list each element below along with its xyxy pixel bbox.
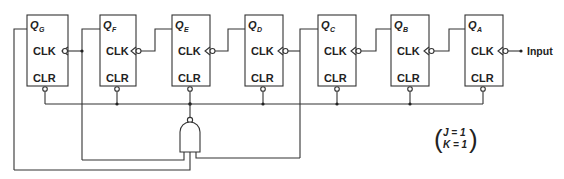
junction-dot-icon — [115, 102, 118, 105]
j-equals-label: J = 1 — [443, 127, 466, 138]
clk-label: CLK — [251, 45, 274, 57]
clk-label: CLK — [33, 45, 56, 57]
flip-flop-d: Q D CLK CLR — [245, 15, 288, 91]
flip-flop-f: Q F CLK CLR — [100, 15, 141, 91]
q-subscript: G — [39, 26, 45, 33]
nand-gate-body-icon — [180, 122, 200, 152]
counter-circuit-diagram: Q G CLK CLR Q F CLK CLR Q E CLK CLR Q D … — [0, 0, 564, 179]
clock-inversion-bubble-icon — [210, 49, 215, 54]
clk-label: CLK — [471, 45, 494, 57]
q-subscript: B — [403, 26, 408, 33]
nand-gate — [14, 104, 300, 170]
clr-label: CLR — [106, 72, 129, 84]
clk-label: CLK — [178, 45, 201, 57]
q-label: Q — [394, 19, 403, 31]
clr-label: CLR — [471, 72, 494, 84]
q-label: Q — [468, 19, 477, 31]
clock-inversion-bubble-icon — [503, 49, 508, 54]
clr-label: CLR — [324, 72, 347, 84]
left-paren: ( — [434, 124, 443, 154]
clr-label: CLR — [178, 72, 201, 84]
clock-inversion-bubble-icon — [429, 49, 434, 54]
junction-dot-icon — [335, 102, 338, 105]
clk-label: CLK — [397, 45, 420, 57]
flip-flop-g: Q G CLK CLR — [27, 15, 68, 91]
clock-inversion-bubble-icon — [136, 49, 141, 54]
flip-flop-b: Q B CLK CLR — [391, 15, 434, 91]
flip-flop-a: Q A CLK CLR — [465, 15, 508, 91]
clr-inversion-bubble-icon — [115, 87, 120, 92]
clr-inversion-bubble-icon — [481, 87, 486, 92]
q-label: Q — [248, 19, 257, 31]
clr-inversion-bubble-icon — [43, 87, 48, 92]
junction-dot-icon — [261, 102, 264, 105]
clr-inversion-bubble-icon — [188, 87, 193, 92]
clr-label: CLR — [251, 72, 274, 84]
clr-inversion-bubble-icon — [261, 87, 266, 92]
clk-label: CLK — [324, 45, 347, 57]
clk-label: CLK — [106, 45, 129, 57]
input-terminal-dot-icon — [519, 49, 522, 52]
q-label: Q — [30, 19, 39, 31]
jk-annotation: ( J = 1 K = 1 ) — [434, 124, 478, 154]
q-subscript: D — [257, 26, 262, 33]
junction-dot-icon — [408, 102, 411, 105]
clear-bus — [45, 92, 483, 106]
clr-label: CLR — [397, 72, 420, 84]
flip-flop-e: Q E CLK CLR — [172, 15, 215, 91]
clock-inversion-bubble-icon — [356, 49, 361, 54]
input-label: Input — [527, 45, 553, 57]
clock-inversion-bubble-icon — [63, 49, 68, 54]
q-label: Q — [321, 19, 330, 31]
flip-flop-c: Q C CLK CLR — [318, 15, 361, 91]
clr-label: CLR — [33, 72, 56, 84]
q-subscript: F — [112, 26, 117, 33]
clr-inversion-bubble-icon — [335, 87, 340, 92]
clock-inversion-bubble-icon — [283, 49, 288, 54]
q-subscript: A — [476, 26, 482, 33]
clr-inversion-bubble-icon — [408, 87, 413, 92]
k-equals-label: K = 1 — [443, 139, 468, 150]
q-label: Q — [103, 19, 112, 31]
junction-dot-icon — [80, 49, 83, 52]
q-label: Q — [175, 19, 184, 31]
q-subscript: E — [184, 26, 189, 33]
right-paren: ) — [469, 124, 478, 154]
